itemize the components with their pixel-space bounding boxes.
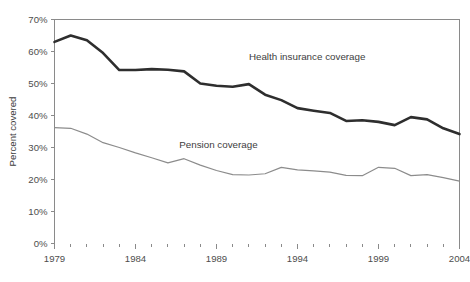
chart-container: 0%10%20%30%40%50%60%70% 1979198419891994… bbox=[0, 0, 470, 282]
y-tick-label-10%: 10% bbox=[28, 206, 48, 217]
x-axis-ticks: 197919841989199419992004 bbox=[44, 244, 470, 264]
x-tick-label-1989: 1989 bbox=[206, 253, 227, 264]
x-tick-label-1984: 1984 bbox=[125, 253, 147, 264]
y-tick-label-20%: 20% bbox=[28, 174, 48, 185]
series-label-health-insurance-coverage: Health insurance coverage bbox=[249, 51, 366, 62]
x-tick-label-2004: 2004 bbox=[449, 253, 470, 264]
y-axis-ticks: 0%10%20%30%40%50%60%70% bbox=[28, 14, 54, 249]
y-tick-label-60%: 60% bbox=[28, 46, 48, 57]
y-tick-label-0%: 0% bbox=[34, 238, 48, 249]
x-tick-label-1999: 1999 bbox=[368, 253, 389, 264]
y-tick-label-30%: 30% bbox=[28, 142, 48, 153]
y-tick-label-70%: 70% bbox=[28, 14, 48, 25]
y-tick-label-40%: 40% bbox=[28, 110, 48, 121]
x-tick-label-1979: 1979 bbox=[44, 253, 65, 264]
x-tick-label-1994: 1994 bbox=[287, 253, 309, 264]
series-labels: Health insurance coveragePension coverag… bbox=[179, 51, 366, 151]
y-axis-title: Percent covered bbox=[7, 97, 18, 167]
y-tick-label-50%: 50% bbox=[28, 78, 48, 89]
coverage-line-chart: 0%10%20%30%40%50%60%70% 1979198419891994… bbox=[0, 0, 470, 282]
series-label-pension-coverage: Pension coverage bbox=[179, 139, 258, 150]
series-line-pension-coverage bbox=[55, 128, 460, 181]
